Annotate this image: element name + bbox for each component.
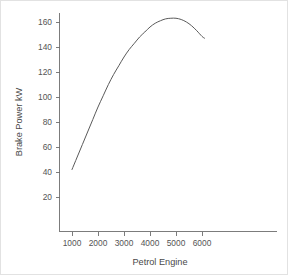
y-tick-label-100: 100 [38, 92, 52, 102]
y-axis-title: Brake Power kW [14, 87, 24, 156]
x-tick-label-2000: 2000 [89, 238, 108, 248]
x-tick-label-4000: 4000 [141, 238, 160, 248]
x-tick-label-5000: 5000 [167, 238, 186, 248]
x-axis-ticks [72, 232, 202, 237]
y-tick-label-60: 60 [43, 142, 53, 152]
x-tick-label-6000: 6000 [193, 238, 212, 248]
x-tick-label-1000: 1000 [63, 238, 82, 248]
y-tick-label-160: 160 [38, 17, 52, 27]
y-tick-label-140: 140 [38, 42, 52, 52]
x-axis-title: Petrol Engine [132, 257, 187, 267]
chart-container: 160 140 120 100 80 60 40 20 1000 2000 30… [0, 0, 288, 275]
x-tick-label-3000: 3000 [115, 238, 134, 248]
y-axis-tick-labels: 160 140 120 100 80 60 40 20 [38, 17, 52, 202]
y-axis-ticks [56, 22, 60, 197]
y-tick-label-120: 120 [38, 67, 52, 77]
brake-power-line-chart: 160 140 120 100 80 60 40 20 1000 2000 30… [0, 0, 288, 275]
x-axis-tick-labels: 1000 2000 3000 4000 5000 6000 [63, 238, 212, 248]
y-tick-label-80: 80 [43, 117, 53, 127]
y-tick-label-20: 20 [43, 192, 53, 202]
brake-power-curve [72, 18, 205, 169]
y-tick-label-40: 40 [43, 167, 53, 177]
